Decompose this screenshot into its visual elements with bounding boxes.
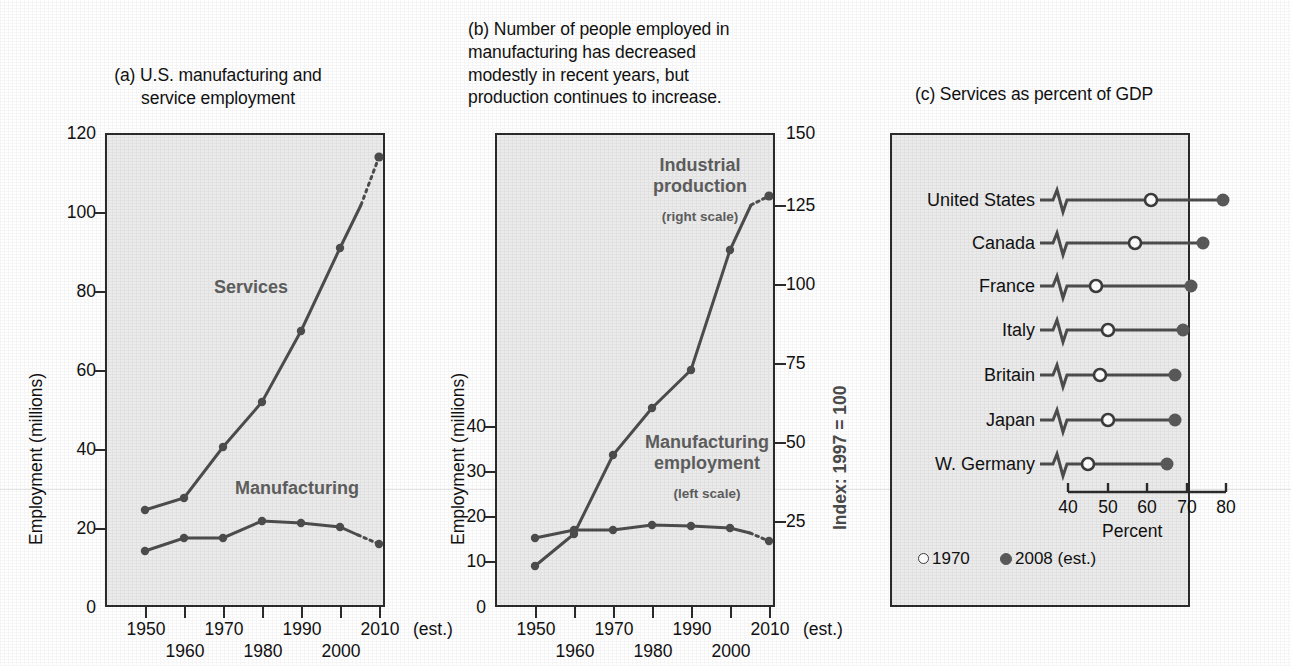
panel-c-x-axis-title: Percent — [1102, 521, 1162, 542]
panel-c-markers-1970 — [1082, 194, 1157, 470]
panel-c-xtick-60: 60 — [1127, 497, 1167, 518]
panel-c-percent-axis — [1068, 483, 1226, 492]
panel-c-legend-2008-label: 2008 (est.) — [1015, 549, 1096, 568]
panel-c-connector-lines — [1040, 190, 1223, 476]
panel-c-markers-2008 — [1161, 194, 1230, 471]
panel-c-series-svg — [0, 0, 1291, 666]
filled-circle-icon — [1000, 553, 1012, 565]
panel-c-xtick-80: 80 — [1206, 497, 1246, 518]
panel-c-xtick-50: 50 — [1088, 497, 1128, 518]
figure-root: (a) U.S. manufacturing and service emplo… — [0, 0, 1291, 666]
panel-c-xtick-40: 40 — [1048, 497, 1088, 518]
panel-c-legend-2008: 2008 (est.) — [1000, 549, 1096, 569]
panel-c-legend-1970-label: 1970 — [932, 549, 970, 568]
panel-c-legend-1970: 1970 — [918, 549, 970, 569]
open-circle-icon — [918, 553, 929, 564]
panel-c-xtick-70: 70 — [1167, 497, 1207, 518]
